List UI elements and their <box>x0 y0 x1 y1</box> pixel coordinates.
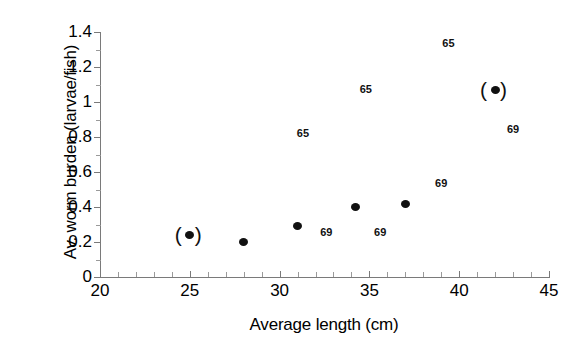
y-tick-major <box>94 32 101 33</box>
y-tick-label: 1.4 <box>4 23 92 40</box>
y-tick-minor <box>96 50 101 51</box>
x-axis-line <box>100 277 549 278</box>
point-annotation-label: 65 <box>288 128 318 139</box>
data-point <box>401 200 410 208</box>
x-tick-major <box>369 271 370 278</box>
x-tick-label: 30 <box>250 281 310 300</box>
x-tick-major <box>100 271 101 278</box>
x-tick-minor <box>405 272 406 277</box>
x-tick-minor <box>333 272 334 277</box>
data-point-paren-right: ) <box>195 224 202 245</box>
x-axis-title: Average length (cm) <box>100 315 548 335</box>
y-tick-minor <box>96 120 101 121</box>
data-point <box>293 222 302 230</box>
y-tick-major <box>94 67 101 68</box>
data-point <box>185 231 194 239</box>
y-tick-label: 0.6 <box>4 163 92 180</box>
data-point-paren-left: ( <box>175 224 182 245</box>
data-point <box>239 238 248 246</box>
x-tick-minor <box>262 272 263 277</box>
data-point-paren-right: ) <box>500 79 507 100</box>
point-annotation-label: 65 <box>433 38 463 49</box>
x-tick-minor <box>154 272 155 277</box>
x-tick-label: 20 <box>70 281 130 300</box>
x-tick-label: 25 <box>160 281 220 300</box>
y-tick-label: 1 <box>4 93 92 110</box>
data-point <box>491 86 500 94</box>
x-tick-major <box>459 271 460 278</box>
x-tick-major <box>190 271 191 278</box>
x-tick-minor <box>208 272 209 277</box>
y-tick-major <box>94 172 101 173</box>
point-annotation-label: 69 <box>498 124 528 135</box>
y-tick-label: 0.4 <box>4 198 92 215</box>
x-tick-minor <box>244 272 245 277</box>
y-tick-major <box>94 242 101 243</box>
point-annotation-label: 69 <box>311 227 341 238</box>
x-tick-minor <box>423 272 424 277</box>
x-tick-minor <box>441 272 442 277</box>
x-tick-minor <box>495 272 496 277</box>
x-tick-minor <box>136 272 137 277</box>
x-tick-minor <box>351 272 352 277</box>
y-tick-label: 0.8 <box>4 128 92 145</box>
data-point-paren-left: ( <box>480 79 487 100</box>
x-tick-major <box>549 271 550 278</box>
x-tick-minor <box>172 272 173 277</box>
point-annotation-label: 65 <box>351 84 381 95</box>
x-tick-minor <box>387 272 388 277</box>
x-tick-minor <box>531 272 532 277</box>
x-tick-minor <box>477 272 478 277</box>
x-tick-minor <box>118 272 119 277</box>
x-tick-major <box>280 271 281 278</box>
y-tick-major <box>94 207 101 208</box>
point-annotation-label: 69 <box>426 178 456 189</box>
data-point <box>351 203 360 211</box>
y-tick-major <box>94 137 101 138</box>
x-tick-minor <box>298 272 299 277</box>
y-tick-major <box>94 102 101 103</box>
x-tick-minor <box>513 272 514 277</box>
x-tick-label: 45 <box>519 281 577 300</box>
point-annotation-label: 69 <box>365 227 395 238</box>
y-tick-minor <box>96 155 101 156</box>
x-tick-minor <box>316 272 317 277</box>
y-tick-minor <box>96 190 101 191</box>
x-tick-label: 35 <box>339 281 399 300</box>
x-tick-label: 40 <box>429 281 489 300</box>
x-tick-minor <box>226 272 227 277</box>
scatter-chart: Av. worm burden (larvae/fish) Average le… <box>0 0 577 346</box>
y-tick-label: 0.2 <box>4 233 92 250</box>
y-tick-minor <box>96 85 101 86</box>
y-tick-label: 1.2 <box>4 58 92 75</box>
y-tick-minor <box>96 225 101 226</box>
y-tick-minor <box>96 260 101 261</box>
